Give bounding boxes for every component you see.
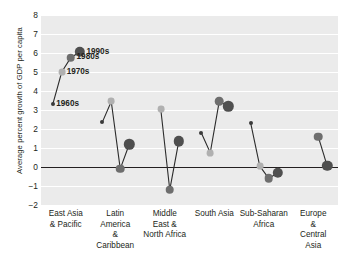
x-label-line: Latin bbox=[91, 209, 141, 220]
x-label-line: Sub-Saharan bbox=[239, 209, 289, 220]
y-tick-label: 0 bbox=[4, 163, 38, 171]
x-label-line: Asia bbox=[289, 241, 339, 252]
data-point-1960s bbox=[100, 120, 104, 124]
x-category-label: MiddleEast &North Africa bbox=[140, 209, 190, 241]
data-point-1970s bbox=[256, 163, 263, 170]
y-tick-label: 1 bbox=[4, 144, 38, 152]
x-label-line: & bbox=[91, 230, 141, 241]
data-point-1960s bbox=[249, 121, 253, 125]
x-axis-category-labels: East Asia& PacificLatinAmerica&Caribbean… bbox=[41, 209, 338, 267]
x-category-label: East Asia& Pacific bbox=[41, 209, 91, 230]
x-label-line: Europe bbox=[289, 209, 339, 220]
y-tick-label: 8 bbox=[4, 11, 38, 19]
x-label-line: Caribbean bbox=[91, 241, 141, 252]
y-tick-label: 2 bbox=[4, 125, 38, 133]
data-point-1970s bbox=[157, 106, 164, 113]
data-point-1980s bbox=[165, 186, 174, 195]
data-point-1970s bbox=[58, 69, 65, 76]
annotation-1960s: 1960s bbox=[56, 100, 79, 108]
series-layer bbox=[41, 15, 338, 205]
data-point-1960s bbox=[199, 131, 203, 135]
gdp-growth-chart: Average percent growth of GDP per capita… bbox=[0, 0, 346, 267]
x-label-line: Middle bbox=[140, 209, 190, 220]
y-tick-label: 5 bbox=[4, 68, 38, 76]
category-connector bbox=[161, 109, 179, 190]
data-point-1980s bbox=[264, 174, 273, 183]
x-label-line: North Africa bbox=[140, 230, 190, 241]
data-point-1970s bbox=[108, 98, 115, 105]
data-point-1970s bbox=[207, 149, 214, 156]
data-point-1980s bbox=[66, 53, 75, 62]
annotation-1980s: 1980s bbox=[77, 53, 100, 61]
annotation-1970s: 1970s bbox=[67, 68, 90, 76]
x-label-line: East Asia bbox=[41, 209, 91, 220]
x-label-line: Africa bbox=[239, 220, 289, 231]
data-point-1960s bbox=[51, 102, 55, 106]
category-connector bbox=[102, 101, 129, 168]
y-tick-label: −1 bbox=[4, 182, 38, 190]
x-label-line: South Asia bbox=[190, 209, 240, 220]
x-category-label: Sub-SaharanAfrica bbox=[239, 209, 289, 230]
y-axis-tick-labels: 876543210−1−2 bbox=[0, 15, 38, 205]
data-point-1980s bbox=[314, 132, 323, 141]
data-point-1980s bbox=[116, 165, 125, 174]
y-tick-label: 3 bbox=[4, 106, 38, 114]
x-label-line: East & bbox=[140, 220, 190, 231]
y-tick-label: 4 bbox=[4, 87, 38, 95]
x-category-label: South Asia bbox=[190, 209, 240, 220]
gridline bbox=[41, 205, 338, 206]
plot-area: 1990s1980s1970s1960s bbox=[41, 15, 338, 205]
x-label-line: Central bbox=[289, 230, 339, 241]
y-tick-label: 6 bbox=[4, 49, 38, 57]
x-label-line: America bbox=[91, 220, 141, 231]
y-tick-label: 7 bbox=[4, 30, 38, 38]
y-tick-label: −2 bbox=[4, 201, 38, 209]
connector-lines bbox=[41, 15, 338, 205]
x-label-line: & Pacific bbox=[41, 220, 91, 231]
x-category-label: LatinAmerica&Caribbean bbox=[91, 209, 141, 251]
x-category-label: Europe&CentralAsia bbox=[289, 209, 339, 251]
x-label-line: & bbox=[289, 220, 339, 231]
